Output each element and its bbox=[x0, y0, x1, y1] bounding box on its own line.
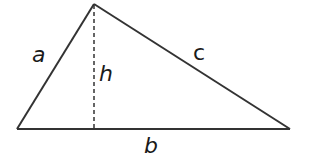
side-a bbox=[17, 4, 94, 129]
side-c bbox=[94, 4, 290, 129]
label-b: b bbox=[144, 135, 158, 157]
label-c: c bbox=[193, 42, 205, 64]
label-a: a bbox=[32, 44, 45, 66]
label-h: h bbox=[99, 63, 113, 85]
